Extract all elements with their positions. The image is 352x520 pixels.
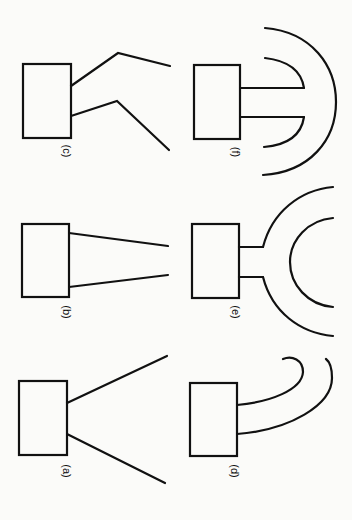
- panel-c: (c): [23, 53, 170, 157]
- panel-f-label: (f): [230, 147, 242, 157]
- panel-d: (d): [190, 358, 332, 478]
- panel-c-box: [23, 64, 71, 138]
- panel-b-label: (b): [61, 305, 73, 318]
- panel-e-box: [192, 224, 239, 298]
- panel-d-label: (d): [229, 464, 241, 477]
- panel-a-label: (a): [61, 464, 73, 477]
- panel-d-lower-curve: [237, 359, 332, 434]
- panel-d-box: [190, 383, 237, 456]
- panel-f-inner-arc-top: [265, 58, 304, 88]
- panel-c-upper-line: [71, 53, 170, 86]
- panel-d-upper-curve: [237, 358, 303, 405]
- panel-f: (f): [194, 28, 336, 175]
- panel-a: (a): [19, 356, 167, 483]
- panel-e-label: (e): [230, 305, 242, 318]
- panel-c-label: (c): [61, 145, 73, 158]
- panel-c-lower-line: [71, 101, 169, 150]
- panel-e-inner-arc: [290, 218, 333, 307]
- panel-b-box: [22, 224, 69, 297]
- panel-e: (e): [192, 187, 333, 336]
- panel-f-outer-arc: [263, 28, 336, 175]
- panel-f-inner-arc-bottom: [264, 117, 304, 147]
- panel-b-upper-line: [69, 233, 168, 246]
- panel-a-lower-line: [67, 434, 165, 483]
- panel-a-upper-line: [67, 356, 167, 403]
- horn-diagram-figure: (c) (f) (b) (e) (a) (d): [0, 0, 352, 520]
- panel-b-lower-line: [69, 275, 168, 287]
- panel-f-box: [194, 65, 240, 139]
- panel-a-box: [19, 381, 67, 455]
- panel-b: (b): [22, 224, 168, 319]
